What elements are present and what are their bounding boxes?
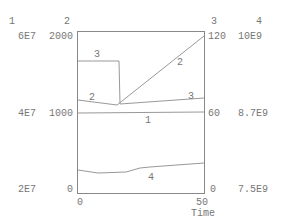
x-axis-title: Time (191, 208, 215, 219)
series-4-line (78, 163, 204, 173)
axis-3-id: 3 (211, 16, 217, 27)
curve-label-3b: 3 (188, 91, 194, 102)
axis-3-tick-bot: 0 (210, 184, 216, 195)
curve-label-4: 4 (148, 172, 154, 183)
axis-2-tick-mid: 1000 (49, 108, 73, 119)
curve-label-1: 1 (145, 115, 151, 126)
axis-4-tick-top: 10E9 (238, 31, 262, 42)
curve-label-3a: 3 (94, 49, 100, 60)
x-tick-end: 50 (196, 197, 208, 208)
axis-1-tick-mid: 4E7 (18, 108, 36, 119)
axis-2-id: 2 (64, 16, 70, 27)
axis-1-id: 1 (9, 16, 15, 27)
chart: 1 2 3 4 6E7 4E7 2E7 2000 1000 0 120 60 0… (0, 0, 304, 224)
axis-4-tick-bot: 7.5E9 (238, 184, 268, 195)
curve-label-2b: 2 (177, 57, 183, 68)
axis-1-tick-bot: 2E7 (18, 184, 36, 195)
axis-2-tick-top: 2000 (49, 31, 73, 42)
axis-1-tick-top: 6E7 (18, 31, 36, 42)
axis-3-tick-top: 120 (208, 31, 226, 42)
axis-2-tick-bot: 0 (67, 184, 73, 195)
series-3-line (78, 61, 204, 104)
series-1-line (78, 112, 204, 113)
axis-3-tick-mid: 60 (208, 108, 220, 119)
axis-4-id: 4 (256, 16, 262, 27)
series-2-line (78, 36, 204, 105)
x-tick-start: 0 (77, 197, 83, 208)
axis-4-tick-mid: 8.7E9 (238, 108, 268, 119)
curve-label-2a: 2 (89, 92, 95, 103)
